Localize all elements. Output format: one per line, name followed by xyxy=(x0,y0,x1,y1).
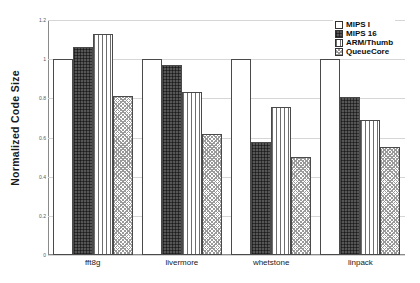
bar-whetstone-mips-i[interactable] xyxy=(231,59,251,255)
y-tick-label: 0.2 xyxy=(20,213,46,219)
bar-group-fft8g xyxy=(48,20,137,255)
bar-linpack-arm-thumb[interactable] xyxy=(360,120,380,255)
y-tick-label: 0.6 xyxy=(20,135,46,141)
bar-whetstone-mips-16[interactable] xyxy=(251,142,271,255)
bar-chart: Normalized Code Size 00.20.40.60.811.2 f… xyxy=(0,0,420,283)
x-tick-label-linpack: linpack xyxy=(316,258,405,267)
gridline xyxy=(48,255,405,256)
x-tick-label-livermore: livermore xyxy=(137,258,226,267)
legend-item-mips-i[interactable]: MIPS I xyxy=(335,20,393,29)
bar-fft8g-queuecore[interactable] xyxy=(113,96,133,255)
x-tick-label-whetstone: whetstone xyxy=(227,258,316,267)
y-tick-label: 0.8 xyxy=(20,95,46,101)
bar-whetstone-queuecore[interactable] xyxy=(291,157,311,255)
bar-fft8g-mips-16[interactable] xyxy=(73,47,93,255)
bar-livermore-arm-thumb[interactable] xyxy=(182,92,202,255)
bar-livermore-mips-i[interactable] xyxy=(142,59,162,255)
bar-group-livermore xyxy=(137,20,226,255)
legend-label: MIPS I xyxy=(346,20,370,29)
bar-linpack-queuecore[interactable] xyxy=(380,147,400,255)
bar-fft8g-arm-thumb[interactable] xyxy=(93,34,113,255)
legend-swatch-icon xyxy=(335,21,343,29)
y-tick-label: 0 xyxy=(20,252,46,258)
legend-label: ARM/Thumb xyxy=(346,38,393,47)
y-tick-label: 1 xyxy=(20,56,46,62)
legend-label: MIPS 16 xyxy=(346,29,377,38)
legend-item-queuecore[interactable]: QueueCore xyxy=(335,47,393,56)
legend-item-arm-thumb[interactable]: ARM/Thumb xyxy=(335,38,393,47)
bar-livermore-queuecore[interactable] xyxy=(202,134,222,255)
y-axis-title-label: Normalized Code Size xyxy=(9,70,21,186)
legend-swatch-icon xyxy=(335,30,343,38)
bar-group-whetstone xyxy=(227,20,316,255)
legend-swatch-icon xyxy=(335,39,343,47)
legend: MIPS IMIPS 16ARM/ThumbQueueCore xyxy=(333,19,395,57)
x-tick-label-fft8g: fft8g xyxy=(48,258,137,267)
bar-fft8g-mips-i[interactable] xyxy=(53,59,73,255)
legend-label: QueueCore xyxy=(346,47,389,56)
y-tick-label: 1.2 xyxy=(20,17,46,23)
bar-linpack-mips-i[interactable] xyxy=(320,59,340,255)
y-tick-label: 0.4 xyxy=(20,174,46,180)
bar-whetstone-arm-thumb[interactable] xyxy=(271,107,291,255)
legend-item-mips-16[interactable]: MIPS 16 xyxy=(335,29,393,38)
legend-swatch-icon xyxy=(335,48,343,56)
x-axis-labels: fft8glivermorewhetstonelinpack xyxy=(48,258,405,267)
bar-livermore-mips-16[interactable] xyxy=(162,65,182,255)
bar-linpack-mips-16[interactable] xyxy=(340,97,360,255)
